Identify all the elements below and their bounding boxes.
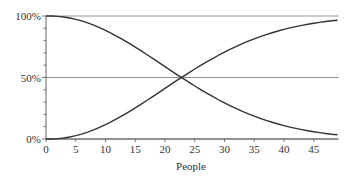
series-line-shared-birthday [46,20,338,139]
x-tick-label: 0 [43,143,49,155]
x-tick-label: 15 [130,143,142,155]
x-tick-label: 20 [160,143,172,155]
x-tick-label: 10 [100,143,112,155]
gridlines [46,16,339,139]
series-line-no-shared-birthday [46,16,338,135]
x-tick-label: 35 [249,143,261,155]
x-axis-label: People [176,160,206,172]
y-tick-label: 50% [21,72,41,84]
y-tick-label: 0% [26,133,41,145]
y-tick-label: 100% [15,10,41,22]
x-tick-label: 40 [279,143,291,155]
x-tick-label: 5 [73,143,79,155]
x-tick-label: 30 [219,143,231,155]
chart: 0%50%100% 051015202530354045 People [0,0,351,180]
x-tick-label: 25 [189,143,201,155]
x-axis-ticks: 051015202530354045 [43,139,320,155]
x-tick-label: 45 [308,143,320,155]
y-axis-ticks: 0%50%100% [15,10,46,145]
